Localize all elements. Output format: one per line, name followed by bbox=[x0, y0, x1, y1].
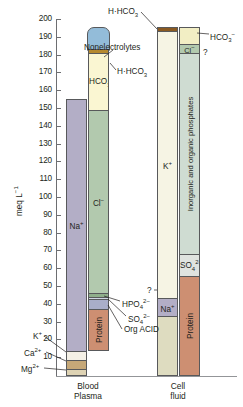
tick-label: 50 bbox=[30, 282, 52, 290]
segment-cell-na[interactable]: Na+ bbox=[157, 299, 178, 317]
segment-cell-k[interactable]: K+ bbox=[157, 32, 178, 299]
segment-plasma-na[interactable]: Na+ bbox=[66, 99, 87, 352]
segment-plasma-hco3[interactable]: HCO3− bbox=[88, 54, 109, 111]
segment-label-cell-so4: SO42− bbox=[180, 258, 199, 273]
cell-anion-bar[interactable]: Cl− Inorganic and organic phosphates SO4… bbox=[179, 27, 200, 376]
callout-plasma-k: K+ bbox=[33, 329, 42, 341]
plasma-cation-bar[interactable]: Na+ bbox=[66, 99, 87, 376]
callout-cell-h-hco3: H·HCO3 bbox=[108, 7, 138, 20]
tick-label: 40 bbox=[30, 300, 52, 308]
column-name-cell-line1: Cell bbox=[148, 381, 208, 391]
segment-label-cell-na: Na+ bbox=[158, 302, 177, 314]
segment-cell-hco3[interactable] bbox=[179, 27, 200, 45]
segment-cell-so4[interactable]: SO42− bbox=[179, 255, 200, 276]
segment-label-plasma-protein: Protein bbox=[94, 317, 103, 343]
segment-cell-protein[interactable]: Protein bbox=[179, 277, 200, 376]
y-axis-title-exponent: −1 bbox=[12, 186, 19, 193]
tick-label: 120 bbox=[30, 157, 52, 165]
callout-nonelectrolytes: Nonelectrolytes bbox=[84, 43, 140, 52]
callout-cell-hco3: HCO3− bbox=[210, 30, 235, 46]
callout-plasma-ca: Ca2+ bbox=[24, 346, 41, 358]
tick-label: 140 bbox=[30, 122, 52, 130]
tick-label: 60 bbox=[30, 264, 52, 272]
segment-label-cell-phosphates: Inorganic and organic phosphates bbox=[185, 97, 194, 211]
segment-plasma-org-acid[interactable] bbox=[88, 300, 109, 311]
callout-cell-anion-unknown: ? bbox=[203, 48, 208, 57]
segment-label-plasma-na: Na+ bbox=[67, 220, 86, 232]
tick-label: 80 bbox=[30, 229, 52, 237]
callout-plasma-org-acid: Org ACID bbox=[124, 325, 159, 334]
column-name-plasma-line2: Plasma bbox=[58, 391, 118, 401]
tick-label: 100 bbox=[30, 193, 52, 201]
tick-label: 160 bbox=[30, 86, 52, 94]
tick-label: 70 bbox=[30, 246, 52, 254]
y-axis-title-text: meq L bbox=[15, 193, 24, 216]
tick-label: 200 bbox=[30, 15, 52, 23]
segment-label-plasma-cl: Cl− bbox=[89, 196, 108, 208]
gamble-diagram: 200 190 180 170 160 150 140 130 120 110 … bbox=[0, 0, 243, 407]
column-name-plasma-line1: Blood bbox=[58, 381, 118, 391]
tick-label: 30 bbox=[30, 318, 52, 326]
segment-label-cell-protein: Protein bbox=[185, 313, 194, 339]
callout-plasma-hpo4: HPO42− bbox=[122, 297, 150, 313]
segment-plasma-mg[interactable] bbox=[66, 370, 87, 376]
segment-label-cell-cl: Cl− bbox=[180, 45, 199, 55]
segment-label-cell-k: K+ bbox=[158, 159, 177, 171]
column-name-cell-line2: fluid bbox=[148, 391, 208, 401]
callout-cell-cation-unknown: ? bbox=[147, 286, 152, 295]
plasma-anion-bar[interactable]: HCO3− Cl− Protein bbox=[88, 49, 109, 376]
y-axis-title: meq L−1 bbox=[12, 186, 24, 216]
segment-plasma-cl[interactable]: Cl− bbox=[88, 111, 109, 294]
segment-plasma-ca[interactable] bbox=[66, 361, 87, 370]
segment-plasma-protein[interactable]: Protein bbox=[88, 310, 109, 351]
segment-plasma-k[interactable] bbox=[66, 352, 87, 361]
segment-cell-phosphates[interactable]: Inorganic and organic phosphates bbox=[179, 54, 200, 255]
segment-cell-unknown[interactable] bbox=[157, 317, 178, 376]
column-name-plasma: Blood Plasma bbox=[58, 381, 118, 401]
segment-label-plasma-hco3: HCO3− bbox=[89, 74, 108, 89]
callout-plasma-h-hco3: H·HCO3 bbox=[117, 67, 147, 80]
tick-label: 90 bbox=[30, 211, 52, 219]
tick-label: 150 bbox=[30, 104, 52, 112]
segment-cell-cl[interactable]: Cl− bbox=[179, 45, 200, 55]
callout-plasma-mg: Mg2+ bbox=[21, 362, 39, 374]
tick-label: 110 bbox=[30, 175, 52, 183]
cell-cation-bar[interactable]: K+ Na+ bbox=[157, 27, 178, 376]
column-name-cell: Cell fluid bbox=[148, 381, 208, 401]
tick-label: 190 bbox=[30, 33, 52, 41]
tick-label: 180 bbox=[30, 51, 52, 59]
tick-label: 130 bbox=[30, 140, 52, 148]
tick-label: 170 bbox=[30, 68, 52, 76]
